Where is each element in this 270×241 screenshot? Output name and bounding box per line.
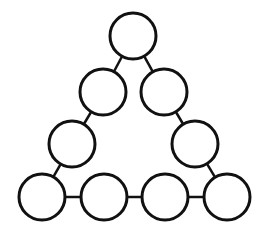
circle-node-left-2	[80, 69, 126, 115]
circle-node-bottom-3	[142, 174, 188, 220]
circle-node-right-3	[172, 121, 218, 167]
circle-node-right-2	[141, 69, 187, 115]
circle-node-left-3	[49, 121, 95, 167]
triangle-circle-diagram	[0, 0, 270, 241]
circle-node-top	[110, 13, 156, 59]
circle-node-bottom-4	[204, 174, 250, 220]
circle-node-bottom-2	[81, 174, 127, 220]
circle-node-bottom-1	[19, 174, 65, 220]
